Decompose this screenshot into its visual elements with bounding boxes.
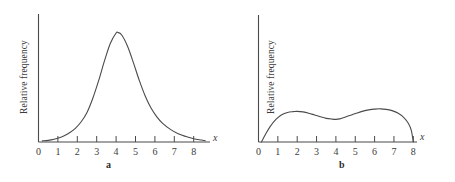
panel-a-x-tick-label-6: 6 bbox=[148, 146, 162, 157]
panel-b: Relative frequency 012345678 x b bbox=[227, 0, 455, 182]
panel-a-x-tick-label-5: 5 bbox=[129, 146, 143, 157]
panel-a-caption: a bbox=[106, 159, 111, 170]
panel-b-x-tick-label-7: 7 bbox=[387, 146, 401, 157]
panel-b-x-tick-label-5: 5 bbox=[348, 146, 362, 157]
figure-two-distribution-curves: Relative frequency 012345678 x a Relativ… bbox=[0, 0, 455, 182]
panel-a-x-tick-label-4: 4 bbox=[109, 146, 123, 157]
panel-b-x-tick-label-4: 4 bbox=[329, 146, 343, 157]
panel-b-caption: b bbox=[339, 159, 345, 170]
panel-b-tick-marks bbox=[259, 136, 414, 142]
panel-b-x-axis-label: x bbox=[420, 131, 424, 142]
panel-a-x-tick-label-3: 3 bbox=[90, 146, 104, 157]
panel-a-x-tick-label-1: 1 bbox=[51, 146, 65, 157]
panel-a-x-tick-label-2: 2 bbox=[70, 146, 84, 157]
panel-b-x-tick-label-2: 2 bbox=[290, 146, 304, 157]
panel-a-x-axis-label: x bbox=[213, 132, 217, 143]
panel-b-x-tick-label-1: 1 bbox=[271, 146, 285, 157]
panel-a: Relative frequency 012345678 x a bbox=[0, 0, 228, 182]
panel-b-x-tick-label-3: 3 bbox=[310, 146, 324, 157]
panel-a-x-tick-label-7: 7 bbox=[167, 146, 181, 157]
panel-b-x-tick-label-6: 6 bbox=[368, 146, 382, 157]
panel-b-x-tick-label-8: 8 bbox=[406, 146, 420, 157]
panel-b-density-curve bbox=[261, 109, 413, 142]
panel-b-x-tick-label-0: 0 bbox=[252, 146, 266, 157]
panel-a-x-tick-label-0: 0 bbox=[32, 146, 46, 157]
panel-a-density-curve bbox=[42, 32, 205, 141]
panel-a-x-tick-label-8: 8 bbox=[187, 146, 201, 157]
